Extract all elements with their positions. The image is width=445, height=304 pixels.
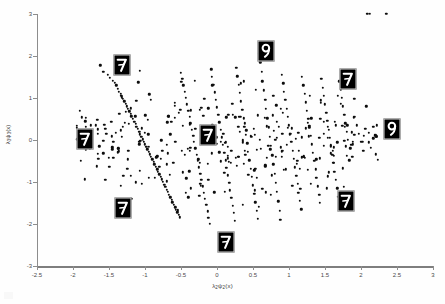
data-point: [223, 190, 225, 192]
y-tick-label: 2: [20, 52, 32, 60]
y-axis-label-lambda-sub: 3: [7, 139, 12, 142]
data-point: [281, 133, 283, 135]
data-point: [227, 146, 229, 148]
data-point: [304, 93, 306, 95]
data-point: [340, 97, 342, 99]
y-tick-label: -1: [20, 178, 32, 186]
data-point: [234, 116, 236, 118]
data-point: [277, 200, 279, 202]
data-point: [147, 133, 149, 135]
data-point: [230, 150, 232, 152]
x-tick-label: 1.5: [321, 271, 329, 279]
x-tick: [325, 266, 326, 270]
digit-thumbnail-7: [77, 129, 94, 150]
data-point: [243, 125, 245, 127]
data-point: [313, 160, 315, 162]
data-point: [318, 137, 320, 139]
data-point: [122, 126, 124, 128]
y-tick-label: 1: [20, 94, 32, 102]
data-point: [363, 134, 365, 136]
data-point: [332, 150, 334, 152]
data-point: [166, 163, 168, 165]
data-point: [184, 154, 186, 156]
data-point: [347, 139, 349, 141]
data-point: [148, 145, 150, 147]
data-point: [247, 151, 249, 153]
data-point: [138, 170, 140, 172]
data-point: [286, 107, 288, 109]
data-point: [85, 117, 87, 119]
x-tick: [253, 266, 254, 270]
data-point: [264, 98, 266, 100]
data-point: [253, 128, 255, 130]
data-point: [318, 157, 320, 159]
data-point: [245, 134, 247, 136]
data-point: [179, 109, 181, 111]
data-point: [183, 90, 185, 92]
x-tick-label: -0.5: [176, 271, 186, 279]
data-point: [126, 167, 128, 169]
data-point: [181, 149, 183, 151]
data-point: [372, 137, 374, 139]
data-point: [239, 92, 241, 94]
data-point: [239, 130, 241, 132]
data-point: [335, 179, 337, 181]
data-point: [205, 204, 207, 206]
data-point: [275, 104, 277, 106]
data-point: [305, 127, 307, 129]
data-point: [328, 171, 330, 173]
data-point: [108, 166, 110, 168]
x-tick: [73, 266, 74, 270]
data-point: [348, 159, 350, 161]
data-point: [254, 134, 256, 136]
data-point: [200, 107, 202, 109]
data-point: [236, 165, 238, 167]
data-point: [222, 133, 224, 135]
data-point: [299, 187, 301, 189]
data-point: [172, 161, 174, 163]
data-point: [161, 150, 163, 152]
data-point: [364, 128, 366, 130]
digit-thumbnail-9: [383, 118, 400, 139]
data-point: [122, 174, 124, 176]
data-point: [369, 146, 371, 148]
data-point: [207, 179, 209, 181]
data-point: [283, 90, 285, 92]
data-point: [368, 141, 370, 143]
data-point: [242, 141, 244, 143]
data-point: [146, 119, 148, 121]
data-point: [335, 124, 337, 126]
data-point: [265, 108, 267, 110]
data-point: [102, 71, 104, 73]
data-point: [104, 127, 106, 129]
x-tick-label: 2.5: [393, 271, 401, 279]
data-point: [224, 159, 226, 161]
data-point: [358, 132, 360, 134]
data-point: [192, 135, 194, 137]
data-point: [326, 175, 328, 177]
data-point: [173, 105, 175, 107]
data-point: [232, 212, 234, 214]
data-point: [239, 82, 241, 84]
data-point: [150, 99, 152, 101]
data-point: [296, 183, 298, 185]
data-point: [323, 120, 325, 122]
data-point: [244, 122, 246, 124]
data-point: [304, 157, 306, 159]
data-point: [166, 144, 168, 146]
x-tick-label: 2: [359, 271, 362, 279]
y-tick: [33, 266, 38, 267]
data-point: [148, 177, 150, 179]
x-tick: [181, 266, 182, 270]
y-tick-label: 3: [20, 10, 32, 18]
data-point: [260, 148, 262, 150]
data-point: [188, 116, 190, 118]
data-point: [154, 176, 156, 178]
data-point: [273, 172, 275, 174]
data-point: [118, 113, 120, 115]
data-point: [123, 122, 125, 124]
data-point: [182, 125, 184, 127]
data-point: [141, 127, 143, 129]
data-point: [299, 200, 301, 202]
data-point: [367, 132, 369, 134]
